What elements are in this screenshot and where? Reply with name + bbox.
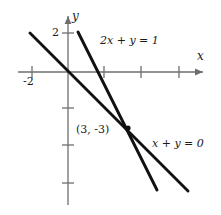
y-tick-label-2: 2 (52, 27, 59, 38)
y-axis-label: y (72, 10, 79, 22)
x-tick-label-minus-2: -2 (23, 76, 34, 87)
x-axis-arrow (195, 69, 203, 76)
intersection-point-label: (3, -3) (76, 124, 109, 135)
equation-label-x-plus-y-equals-0: x + y = 0 (152, 138, 204, 149)
line-2x-plus-y-equals-1 (78, 32, 157, 190)
x-axis-label: x (197, 50, 204, 62)
intersection-point-marker (125, 125, 130, 130)
line-x-plus-y-equals-0 (30, 33, 188, 191)
y-axis-arrow (65, 16, 72, 24)
coordinate-plot (0, 0, 221, 215)
equation-label-2x-plus-y-equals-1: 2x + y = 1 (100, 35, 159, 46)
